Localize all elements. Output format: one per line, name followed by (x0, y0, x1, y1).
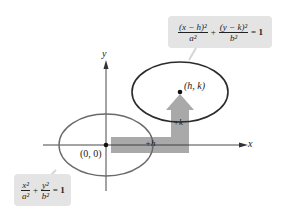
top-callout-leader (189, 48, 196, 60)
center-label: (h, k) (184, 80, 205, 91)
y-axis-label: y (102, 48, 106, 59)
shift-k-label: +k (173, 117, 183, 127)
center-point (178, 90, 183, 95)
standard-term1: x² a² (21, 180, 30, 201)
origin-point (104, 143, 109, 148)
translated-term1: (x − h)² a² (178, 22, 208, 43)
translated-term2: (y − k)² b² (219, 22, 248, 43)
standard-term2: y² b² (41, 180, 50, 201)
translated-equation-box: (x − h)² a² + (y − k)² b² = 1 (168, 16, 272, 48)
y-axis-arrow-icon (104, 60, 109, 69)
x-axis-label: x (248, 138, 252, 149)
x-axis-arrow-icon (239, 143, 248, 148)
shift-h-label: +h (145, 138, 156, 148)
standard-equation-box: x² a² + y² b² = 1 (14, 174, 71, 206)
origin-label: (0, 0) (80, 148, 102, 159)
